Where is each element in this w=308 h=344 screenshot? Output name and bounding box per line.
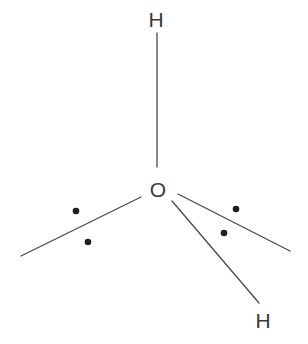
atom-hydrogen-top: H [148,8,163,31]
lone-pair-dot-right-lower [221,230,228,237]
atom-hydrogen-bottom: H [255,309,270,332]
lone-pair-dot-left-upper [73,208,80,215]
bond-o-h-bottom [172,201,259,303]
atom-oxygen: O [150,178,166,201]
lone-pair-dot-right-upper [233,206,240,213]
lone-pair-line-right [178,194,290,251]
lone-pair-line-left [21,197,141,256]
lone-pair-dot-left-lower [85,239,92,246]
water-molecule-diagram: H O H [0,0,308,344]
